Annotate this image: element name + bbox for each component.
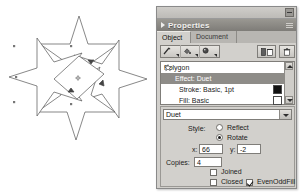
resize-grip-icon[interactable] [286, 22, 293, 28]
checkbox-closed[interactable] [210, 179, 217, 186]
list-item-effect-duet[interactable]: Effect: Duet [161, 73, 294, 84]
scroll-down-icon[interactable] [285, 96, 293, 104]
panel-window-bar[interactable] [157, 7, 296, 19]
panel-title: Properties [168, 21, 210, 30]
delete-button[interactable] [279, 45, 295, 58]
checkbox-evenoddfill-label: EvenOddFill [257, 178, 295, 185]
close-icon[interactable] [285, 8, 294, 17]
tab-document[interactable]: Document [191, 31, 237, 43]
tab-object[interactable]: Object [157, 31, 191, 43]
drawing-canvas[interactable] [0, 0, 155, 194]
polygon-icon [164, 64, 172, 72]
radio-reflect-label: Reflect [227, 124, 249, 131]
stroke-caret-icon[interactable] [176, 54, 179, 57]
effect-icon [202, 47, 210, 55]
list-item-polygon[interactable]: Polygon [161, 62, 294, 73]
app-root: Properties Object Document [0, 0, 300, 194]
paint-bucket-icon [183, 47, 191, 55]
y-label: y: [230, 146, 235, 153]
copies-input[interactable]: 4 [194, 157, 222, 167]
radio-rotate-label: Rotate [227, 134, 248, 141]
effect-parameters: Duet Style: Reflect Rotate x: 66 y: -2 C… [160, 106, 295, 187]
fill-color-swatch[interactable] [273, 96, 282, 105]
panel-titlebar[interactable]: Properties [157, 19, 296, 31]
pen-icon [163, 47, 171, 55]
stroke-color-swatch[interactable] [273, 85, 282, 94]
scroll-up-icon[interactable] [285, 62, 293, 70]
copies-label: Copies: [166, 159, 190, 166]
x-input[interactable]: 66 [199, 144, 223, 154]
list-item-fill[interactable]: Fill: Basic [161, 95, 294, 106]
object-list[interactable]: Polygon Effect: Duet Stroke: Basic, 1pt … [160, 61, 295, 105]
radio-reflect[interactable] [216, 124, 223, 131]
list-item-label: Stroke: Basic, 1pt [179, 86, 234, 93]
effect-preset-select[interactable]: Duet [163, 109, 292, 120]
trash-icon [283, 48, 291, 56]
object-list-scrollbar[interactable] [284, 62, 294, 104]
x-label: x: [192, 146, 197, 153]
duplicate-button[interactable] [257, 45, 276, 58]
fill-caret-icon[interactable] [195, 54, 198, 57]
artwork-svg [0, 0, 155, 194]
effect-preset-value: Duet [166, 111, 181, 118]
collapse-arrow-icon[interactable] [161, 22, 165, 28]
effect-caret-icon[interactable] [214, 54, 217, 57]
style-label: Style: [188, 125, 206, 132]
stroke-tool-button[interactable] [161, 45, 180, 58]
panel-tabs[interactable]: Object Document [157, 31, 296, 43]
checkbox-evenoddfill[interactable] [246, 179, 253, 186]
list-item-label: Effect: Duet [175, 75, 211, 82]
panel-toolbar[interactable] [160, 45, 295, 58]
checkbox-joined-label: Joined [221, 168, 242, 175]
y-input[interactable]: -2 [237, 144, 261, 154]
list-item-stroke[interactable]: Stroke: Basic, 1pt [161, 84, 294, 95]
duplicate-icon [261, 48, 274, 56]
tabs-filler [237, 31, 296, 44]
properties-panel[interactable]: Properties Object Document [156, 6, 297, 189]
effect-tool-button[interactable] [199, 45, 218, 58]
checkbox-joined[interactable] [210, 169, 217, 176]
list-item-label: Fill: Basic [179, 97, 209, 104]
radio-rotate[interactable] [216, 134, 223, 141]
fill-tool-button[interactable] [180, 45, 199, 58]
checkbox-closed-label: Closed [221, 178, 243, 185]
chevron-down-icon[interactable] [279, 110, 291, 119]
